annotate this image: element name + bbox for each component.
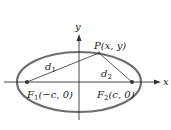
ellipse-diagram: x y P(x, y) d1 d2 F1(−c, 0) F2(c, 0): [0, 0, 171, 130]
d1-label: d1: [45, 61, 56, 74]
d1-segment: [27, 53, 99, 82]
y-axis-arrow-icon: [77, 34, 82, 41]
point-p: [98, 52, 101, 55]
y-axis-label: y: [74, 21, 81, 32]
focus-2-point: [130, 80, 134, 84]
d2-label: d2: [101, 68, 112, 81]
x-axis-arrow-icon: [154, 80, 161, 85]
focus-1-point: [25, 80, 29, 84]
x-axis-label: x: [163, 76, 169, 87]
focus-1-label: F1(−c, 0): [26, 89, 73, 102]
point-p-label: P(x, y): [93, 40, 126, 51]
